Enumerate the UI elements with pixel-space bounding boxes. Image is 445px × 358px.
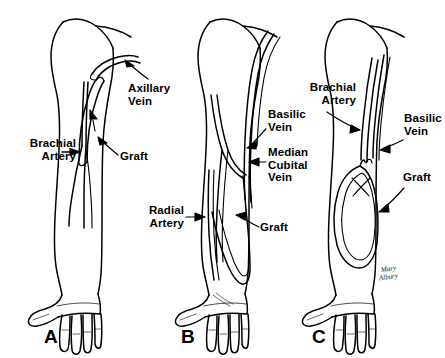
- label-basilic-vein-c: Basilic Vein: [404, 112, 442, 137]
- label-graft-b: Graft: [260, 221, 288, 234]
- panel-c-arm-outline: [325, 19, 404, 295]
- panel-b-radial-artery: [208, 170, 219, 280]
- label-median-cubital-vein: Median Cubital Vein: [268, 146, 308, 184]
- panel-letter-a: A: [44, 326, 58, 348]
- panel-c-graft-loop: [334, 159, 378, 268]
- panel-b-median-cubital-vein: [211, 95, 246, 262]
- label-brachial-artery-a: Brachial Artery: [2, 137, 76, 162]
- panel-letter-c: C: [312, 326, 326, 348]
- anatomical-illustration: [0, 0, 445, 358]
- label-basilic-vein-b: Basilic Vein: [268, 108, 306, 133]
- panel-letter-b: B: [181, 326, 195, 348]
- figure-canvas: Axillary Vein Brachial Artery Graft Basi…: [0, 0, 445, 358]
- label-graft-a: Graft: [120, 150, 148, 163]
- label-axillary-vein: Axillary Vein: [128, 82, 170, 107]
- label-graft-c: Graft: [403, 171, 431, 184]
- label-brachial-artery-c: Brachial Artery: [282, 81, 356, 106]
- panel-a-hand: [28, 294, 101, 354]
- label-radial-artery: Radial Artery: [110, 204, 184, 229]
- panel-a-axillary-vein: [90, 56, 140, 81]
